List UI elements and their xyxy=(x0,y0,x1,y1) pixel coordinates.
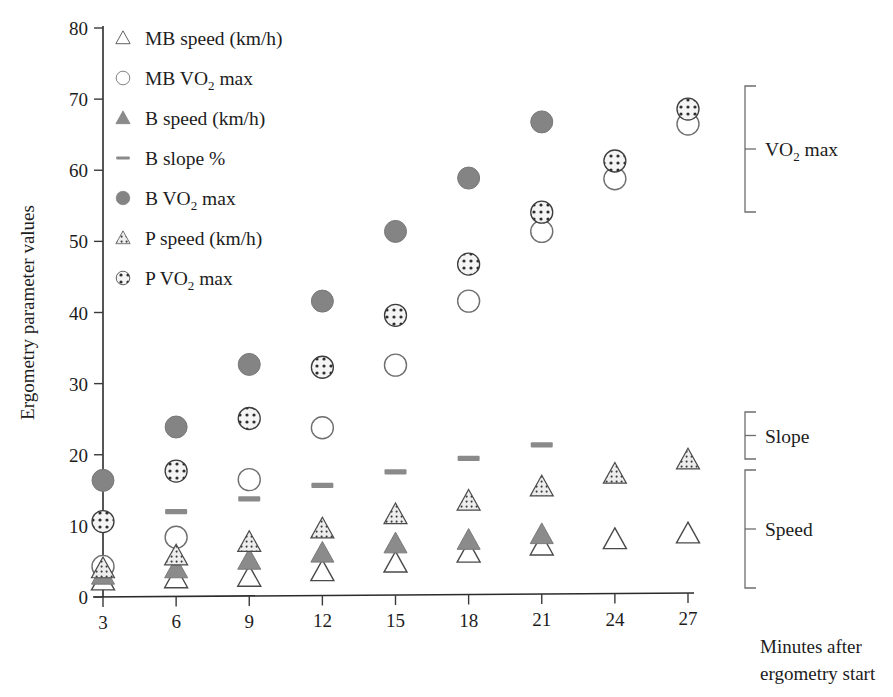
point-mb_speed-15 xyxy=(384,551,407,572)
x-axis-title-line2: ergometry start xyxy=(760,663,876,684)
point-p_vo2max-24 xyxy=(604,150,626,172)
x-tick-label: 15 xyxy=(386,610,405,631)
point-mb_vo2max-18 xyxy=(458,290,480,312)
point-b_vo2max-3 xyxy=(92,469,114,491)
x-tick-label: 12 xyxy=(313,610,332,631)
y-axis-title: Ergometry parameter values xyxy=(17,205,38,420)
point-mb_vo2max-12 xyxy=(311,417,333,439)
point-b_slope-15 xyxy=(385,469,407,474)
point-mb_vo2max-9 xyxy=(238,469,260,491)
point-b_speed-18 xyxy=(457,529,480,550)
y-tick-label: 30 xyxy=(69,374,88,395)
chart-legend: MB speed (km/h)MB VO2 maxB speed (km/h)B… xyxy=(116,28,283,293)
legend-item-p_speed[interactable]: P speed (km/h) xyxy=(116,228,262,250)
point-b_vo2max-12 xyxy=(311,290,333,312)
x-tick-label: 9 xyxy=(245,611,255,632)
point-mb_speed-27 xyxy=(677,522,700,543)
x-tick-label: 21 xyxy=(532,609,551,630)
point-b_vo2max-9 xyxy=(238,353,260,375)
series-b_slope xyxy=(165,442,553,514)
y-tick-label: 80 xyxy=(69,18,88,39)
bracket-speed: Speed xyxy=(745,470,813,588)
point-b_vo2max-18 xyxy=(458,167,480,189)
bracket-label-main: Speed xyxy=(765,519,813,540)
x-tick-label: 24 xyxy=(605,609,625,630)
point-p_vo2max-3 xyxy=(92,511,114,533)
point-b_vo2max-15 xyxy=(385,220,407,242)
legend-label-main: B slope % xyxy=(145,148,225,169)
point-b_slope-9 xyxy=(238,496,260,501)
point-b_vo2max-6 xyxy=(165,416,187,438)
y-tick-label: 60 xyxy=(69,160,88,181)
legend-item-mb_speed[interactable]: MB speed (km/h) xyxy=(116,28,283,50)
point-b_speed-12 xyxy=(311,541,334,562)
legend-item-label: P speed (km/h) xyxy=(145,228,262,250)
legend-label-main: B speed (km/h) xyxy=(145,108,265,130)
legend-item-label: B VO2 max xyxy=(145,188,236,213)
legend-label-suffix: max xyxy=(194,268,233,289)
point-p_speed-6 xyxy=(165,544,188,565)
point-p_vo2max-21 xyxy=(531,201,553,223)
legend-label-suffix: max xyxy=(197,188,236,209)
legend-marker-b_vo2max xyxy=(116,191,130,205)
legend-label-main: P VO xyxy=(145,268,188,289)
point-b_slope-6 xyxy=(165,509,187,514)
x-tick-label: 6 xyxy=(171,611,181,632)
bracket-label-suffix: max xyxy=(800,139,839,160)
legend-item-label: MB VO2 max xyxy=(145,68,253,93)
legend-marker-p_speed xyxy=(116,231,130,244)
point-p_speed-12 xyxy=(311,517,334,538)
point-p_speed-9 xyxy=(238,531,261,552)
legend-item-b_vo2max[interactable]: B VO2 max xyxy=(116,188,236,213)
point-p_vo2max-9 xyxy=(238,407,260,429)
legend-marker-b_speed xyxy=(116,111,130,124)
bracket-slope: Slope xyxy=(745,412,809,459)
bracket-label-main: Slope xyxy=(765,426,809,447)
point-p_vo2max-6 xyxy=(165,460,187,482)
point-p_vo2max-18 xyxy=(458,253,480,275)
point-b_slope-18 xyxy=(458,456,480,461)
y-tick-label: 40 xyxy=(69,303,88,324)
point-b_slope-21 xyxy=(531,442,553,447)
bracket-vo2max: VO2 max xyxy=(745,86,838,212)
bracket-label-main: VO xyxy=(765,139,793,160)
point-b_speed-21 xyxy=(530,523,553,544)
legend-marker-p_vo2max xyxy=(116,271,130,285)
point-p_speed-27 xyxy=(677,448,700,469)
legend-item-label: P VO2 max xyxy=(145,268,233,293)
point-p_vo2max-12 xyxy=(311,356,333,378)
bracket-label-slope: Slope xyxy=(765,426,809,447)
legend-item-label: B speed (km/h) xyxy=(145,108,265,130)
point-p_speed-24 xyxy=(603,462,626,483)
legend-item-p_vo2max[interactable]: P VO2 max xyxy=(116,268,233,293)
point-b_vo2max-21 xyxy=(531,111,553,133)
legend-item-b_speed[interactable]: B speed (km/h) xyxy=(116,108,265,130)
legend-label-main: P speed (km/h) xyxy=(145,228,262,250)
y-tick-label: 70 xyxy=(69,89,88,110)
point-p_vo2max-15 xyxy=(385,304,407,326)
x-axis-title-line1: Minutes after xyxy=(760,636,863,657)
y-tick-label: 20 xyxy=(69,445,88,466)
legend-marker-b_slope xyxy=(116,156,130,159)
bracket-label-speed: Speed xyxy=(765,519,813,540)
x-tick-label: 27 xyxy=(679,608,698,629)
point-p_speed-21 xyxy=(530,475,553,496)
legend-item-mb_vo2max[interactable]: MB VO2 max xyxy=(116,68,253,93)
legend-item-b_slope[interactable]: B slope % xyxy=(116,148,225,169)
bracket-label-vo2max: VO2 max xyxy=(765,139,838,164)
y-tick-label: 10 xyxy=(69,516,88,537)
x-axis-line xyxy=(93,593,694,597)
point-p_speed-18 xyxy=(457,489,480,510)
legend-item-label: B slope % xyxy=(145,148,225,169)
y-tick-label: 50 xyxy=(69,231,88,252)
point-mb_speed-12 xyxy=(311,560,334,581)
legend-marker-mb_speed xyxy=(116,31,130,44)
point-b_slope-12 xyxy=(311,483,333,488)
legend-item-label: MB speed (km/h) xyxy=(145,28,283,50)
x-tick-label: 3 xyxy=(98,612,108,633)
legend-marker-mb_vo2max xyxy=(116,71,130,85)
point-mb_speed-24 xyxy=(603,528,626,549)
x-tick-label: 18 xyxy=(459,610,478,631)
point-b_speed-15 xyxy=(384,532,407,553)
point-mb_vo2max-15 xyxy=(385,354,407,376)
